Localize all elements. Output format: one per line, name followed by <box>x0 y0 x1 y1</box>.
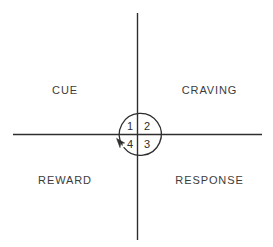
cycle-step-2: 2 <box>141 121 153 132</box>
quadrant-label-cue: CUE <box>0 85 130 96</box>
diagram-canvas <box>0 0 273 247</box>
cycle-step-3: 3 <box>141 139 153 150</box>
quadrant-label-craving: CRAVING <box>146 85 273 96</box>
habit-loop-diagram: CUE CRAVING REWARD RESPONSE 1 2 3 4 <box>0 0 273 247</box>
quadrant-label-reward: REWARD <box>0 175 130 186</box>
cycle-step-1: 1 <box>124 121 136 132</box>
quadrant-label-response: RESPONSE <box>146 175 273 186</box>
cycle-step-4: 4 <box>124 139 136 150</box>
